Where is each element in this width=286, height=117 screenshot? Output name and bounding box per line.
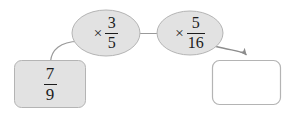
operation-2-shape[interactable] xyxy=(157,11,223,55)
input-box-shape[interactable] xyxy=(15,61,86,108)
diagram-graphics xyxy=(0,0,286,117)
connector-op2-to-output xyxy=(216,47,246,55)
connector-input-to-op1 xyxy=(51,42,79,62)
output-box-shape[interactable] xyxy=(213,61,281,105)
operation-1-shape[interactable] xyxy=(72,10,140,56)
diagram-canvas: 7 9 × 3 5 × 5 16 xyxy=(0,0,286,117)
